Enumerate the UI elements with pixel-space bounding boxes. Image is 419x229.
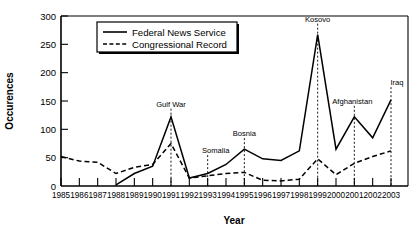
x-tick-label-1999: 1999 — [309, 191, 328, 200]
x-tick-label-1996: 1996 — [254, 191, 273, 200]
x-tick-label-2002: 2002 — [364, 191, 383, 200]
x-tick-label-1998: 1998 — [290, 191, 309, 200]
y-axis-tick-labels: 300 250 200 150 100 50 0 — [40, 11, 56, 192]
x-tick-label-2003: 2003 — [382, 191, 401, 200]
chart-legend: Federal News Service Congressional Recor… — [97, 22, 239, 54]
x-tick-label-2001: 2001 — [345, 191, 364, 200]
y-axis-ticks — [61, 16, 68, 158]
annotation-somalia: Somalia — [202, 146, 230, 155]
annotation-iraq: Iraq — [390, 78, 403, 87]
x-tick-label-1986: 1986 — [70, 191, 89, 200]
x-tick-label-1992: 1992 — [180, 191, 199, 200]
chart-container: 300 250 200 150 100 50 0 Occurences 1985… — [0, 0, 419, 229]
annotation-kosovo: Kosovo — [305, 15, 330, 24]
y-tick-label-50: 50 — [45, 152, 56, 163]
y-tick-label-300: 300 — [40, 11, 56, 22]
annotation-afghanistan: Afghanistan — [332, 97, 372, 106]
x-tick-label-2000: 2000 — [327, 191, 346, 200]
x-tick-label-1991: 1991 — [162, 191, 181, 200]
x-axis-ticks — [61, 178, 391, 186]
legend-label-congressional-record: Congressional Record — [132, 39, 227, 50]
y-tick-label-100: 100 — [40, 124, 56, 135]
y-axis-title: Occurences — [4, 72, 15, 130]
y-tick-label-200: 200 — [40, 67, 56, 78]
y-tick-label-150: 150 — [40, 96, 56, 107]
x-tick-label-1988: 1988 — [107, 191, 126, 200]
legend-label-federal-news-service: Federal News Service — [132, 27, 226, 38]
x-axis-title: Year — [223, 215, 244, 226]
y-tick-label-0: 0 — [51, 181, 56, 192]
y-tick-label-250: 250 — [40, 39, 56, 50]
x-axis-tick-labels: 1985198619871988198919901991199219931994… — [52, 191, 401, 200]
x-tick-label-1995: 1995 — [235, 191, 254, 200]
annotation-bosnia: Bosnia — [233, 129, 257, 138]
x-tick-label-1990: 1990 — [144, 191, 163, 200]
line-chart: 300 250 200 150 100 50 0 Occurences 1985… — [0, 0, 419, 229]
annotation-gulf-war: Gulf War — [156, 100, 186, 109]
x-tick-label-1989: 1989 — [125, 191, 144, 200]
x-tick-label-1987: 1987 — [89, 191, 108, 200]
x-tick-label-1994: 1994 — [217, 191, 236, 200]
series-line-federal-news-service — [116, 35, 391, 185]
x-tick-label-1997: 1997 — [272, 191, 291, 200]
x-tick-label-1993: 1993 — [199, 191, 218, 200]
x-tick-label-1985: 1985 — [52, 191, 71, 200]
